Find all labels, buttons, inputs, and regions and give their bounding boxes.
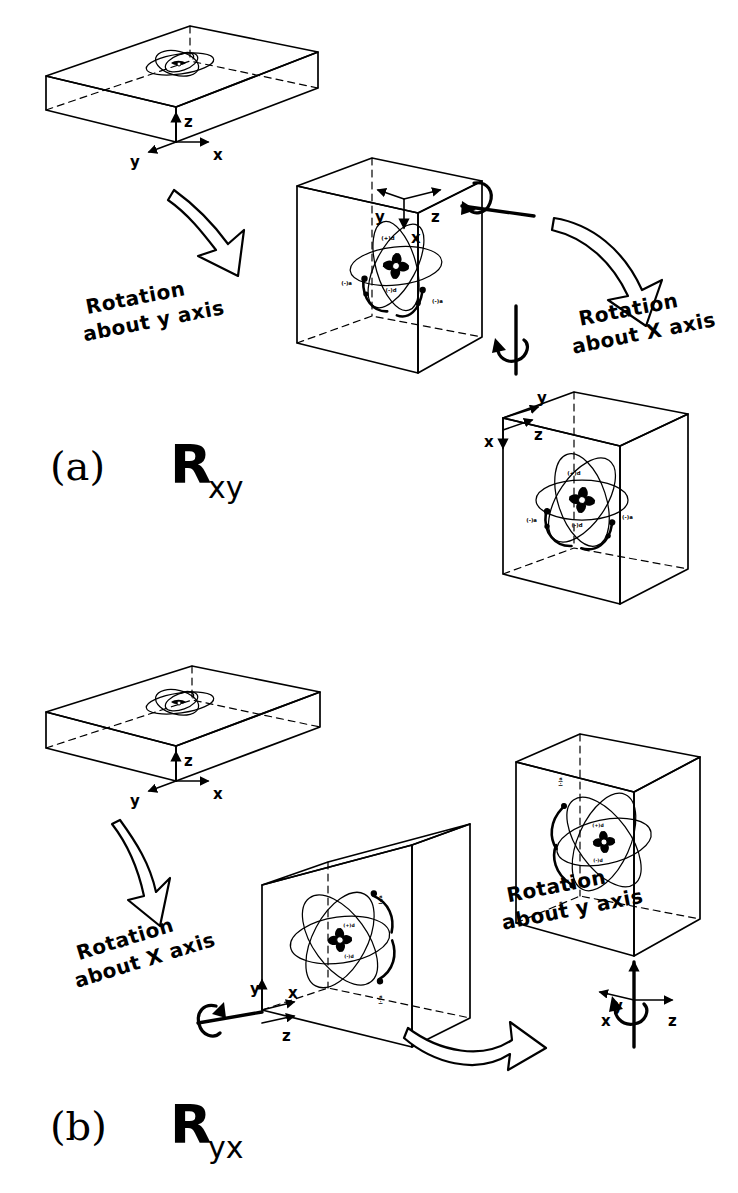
axes-initial-slab-b: z y x <box>130 752 223 810</box>
panel-label-b: (b) <box>50 1103 107 1149</box>
orbital-cluster-a2 <box>342 211 450 321</box>
axis-label-x: x <box>213 785 223 803</box>
panel-b-box-after-x: y x z <box>198 824 470 1047</box>
axis-label-z: z <box>282 1027 291 1045</box>
operator-subscript-a: xy <box>208 470 244 505</box>
axes-box-after-x-a: y z x <box>484 389 547 451</box>
orbital-node-dot <box>377 978 384 985</box>
panel-label-a: (a) <box>50 443 105 489</box>
axis-label-z: z <box>668 1012 677 1030</box>
operator-symbol-a: R <box>170 433 212 496</box>
arrow-rotation-about-y-a <box>168 190 244 276</box>
orbital-label-minus-d: (-)d <box>344 954 353 959</box>
orbital-label-minus-d: (-)d <box>571 522 582 528</box>
rotation-figure-canvas: z y x Rotation about y axis <box>0 0 738 1193</box>
axis-icon-vertical-rod-b <box>609 962 647 1047</box>
orbital-label-minus-a-right: (-)a <box>622 514 633 520</box>
orbital-node-dot <box>419 286 426 293</box>
orbital-label-plus-d: (+)d <box>343 923 354 928</box>
label-rotation-about-x-b: Rotation about X axis <box>64 902 218 992</box>
axis-label-z: z <box>431 208 440 226</box>
axis-label-x: x <box>288 984 298 1002</box>
panel-a-initial-slab: z y x <box>46 26 318 171</box>
operator-subscript-b: yx <box>208 1130 244 1165</box>
panel-b-initial-slab: z y x <box>46 666 320 810</box>
orbital-label-minus-a-top: (-)a <box>378 895 383 904</box>
axis-icon-vertical-rod-a <box>492 306 527 374</box>
arrow-rotation-about-x-b <box>112 820 170 926</box>
orbital-label-minus-a-top: (-)a <box>558 777 563 786</box>
axis-label-x: x <box>411 229 421 247</box>
axis-label-y: y <box>250 980 260 998</box>
arrow-rotation-about-y-b <box>404 1022 546 1070</box>
orbital-cluster-flat <box>145 46 215 80</box>
orbital-label-minus-a-bottom: (-)a <box>378 995 383 1004</box>
panel-a-box-after-x: y z x <box>484 389 688 604</box>
axes-box-after-y-b: y x z <box>600 962 677 1030</box>
label-rotation-about-y-a: Rotation about y axis <box>76 270 226 346</box>
orbital-label-minus-d: (-)d <box>593 858 602 863</box>
axis-icon-horizontal-rod-a <box>461 183 534 216</box>
orbital-label-minus-a-bottom: (-)a <box>558 901 563 910</box>
axis-label-x: x <box>484 433 494 451</box>
orbital-label-minus-d: (-)d <box>385 287 396 293</box>
panel-a-box-after-y: y z x (+)d (-)d (-)a (- <box>297 158 482 373</box>
orbital-label-plus-d: (+)d <box>592 823 603 828</box>
operator-symbol-b: R <box>170 1093 212 1156</box>
axis-label-z: z <box>184 752 193 770</box>
axis-label-z: z <box>534 426 543 444</box>
orbital-label-minus-a-left: (-)a <box>341 280 352 286</box>
orbital-label-minus-a-right: (-)a <box>432 298 443 304</box>
axis-label-z: z <box>184 113 193 131</box>
panel-b: z y x Rotation about X axis <box>46 666 700 1165</box>
figure-root: z y x Rotation about y axis <box>0 0 738 1193</box>
orbital-cluster-flat-b <box>145 685 215 719</box>
orbital-label-plus-d: (+)d <box>567 470 580 476</box>
orbital-label-plus-d: (+)d <box>381 235 394 241</box>
orbital-label-minus-a-left: (-)a <box>526 517 537 523</box>
axis-label-y: y <box>537 389 547 407</box>
axis-icon-horizontal-rod-b <box>198 1002 262 1036</box>
panel-b-caption: (b) R yx <box>50 1093 244 1165</box>
panel-a: z y x Rotation about y axis <box>46 26 718 604</box>
axis-label-x: x <box>601 1012 611 1030</box>
axis-label-y: y <box>130 792 140 810</box>
axis-label-x: x <box>213 146 223 164</box>
axis-label-y: y <box>130 153 140 171</box>
panel-a-caption: (a) R xy <box>50 433 244 505</box>
axes-initial-slab-a: z y x <box>130 113 223 171</box>
